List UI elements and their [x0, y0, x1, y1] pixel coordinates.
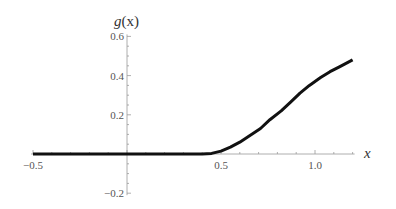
y-tick-label: −0.2: [104, 187, 124, 199]
y-tick-label: 0.4: [110, 70, 124, 82]
axes: [31, 34, 355, 195]
ticks: [33, 36, 353, 193]
x-tick-label: 1.0: [308, 159, 322, 171]
g-curve: [33, 60, 353, 154]
y-axis-label: g(x): [114, 13, 139, 30]
y-tick-label: 0.6: [110, 30, 124, 42]
y-tick-label: 0.2: [110, 109, 124, 121]
x-axis-label: x: [363, 145, 371, 161]
x-tick-label: −0.5: [23, 159, 43, 171]
chart: −0.50.51.0−0.20.20.40.6 g(x) x: [0, 0, 396, 209]
x-tick-label: 0.5: [214, 159, 228, 171]
